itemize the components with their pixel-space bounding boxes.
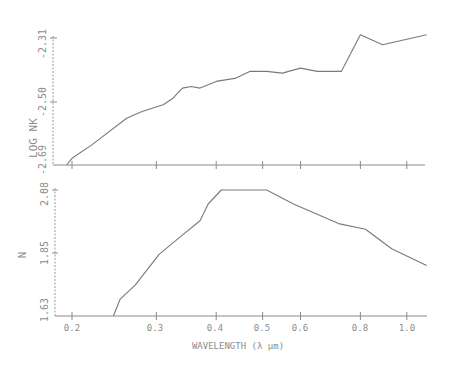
- x-axis-label: WAVELENGTH (λ µm): [192, 341, 284, 351]
- x-tick-label: 0.5: [254, 323, 270, 333]
- top-panel: -2.31 -2.50 -2.69 LOG NK: [27, 29, 427, 175]
- bottom-panel: 2.08 1.85 1.63 N 0.2 0.3 0.4 0.5 0.6 0.8…: [16, 182, 427, 351]
- x-tick-label: 0.3: [147, 323, 163, 333]
- x-tick-label: 0.4: [207, 323, 223, 333]
- top-y-tick-label: -2.50: [37, 87, 48, 117]
- log-nk-series-line: [67, 35, 427, 165]
- top-y-tick-label: -2.31: [37, 29, 48, 59]
- bottom-y-tick-label: 1.85: [39, 241, 50, 265]
- x-tick-label: 0.6: [292, 323, 308, 333]
- n-series-line: [113, 190, 426, 316]
- top-y-axis-label: LOG NK: [27, 118, 40, 158]
- chart-figure: -2.31 -2.50 -2.69 LOG NK 2.08 1.85 1.63 …: [0, 0, 450, 368]
- x-tick-label: 0.2: [64, 323, 80, 333]
- x-tick-label: 1.0: [399, 323, 415, 333]
- x-tick-label: 0.8: [352, 323, 368, 333]
- bottom-y-tick-label: 1.63: [39, 298, 50, 322]
- bottom-y-axis-label: N: [16, 252, 29, 259]
- x-tick-labels: 0.2 0.3 0.4 0.5 0.6 0.8 1.0: [64, 323, 415, 333]
- bottom-y-tick-label: 2.08: [39, 182, 50, 206]
